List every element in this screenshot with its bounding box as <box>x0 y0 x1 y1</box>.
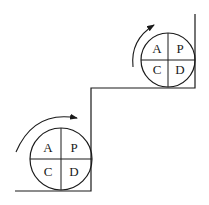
lower-quadrant-a: A <box>43 140 53 155</box>
lower-quadrant-c: C <box>44 164 53 179</box>
lower-quadrant-p: P <box>70 140 77 155</box>
upper-pdca-wheel: A P C D <box>133 25 195 87</box>
pdca-staircase-diagram: A P C D A P C D <box>0 0 209 205</box>
upper-quadrant-c: C <box>153 62 162 77</box>
upper-quadrant-d: D <box>175 62 184 77</box>
lower-quadrant-d: D <box>69 164 78 179</box>
upper-rotation-arrow-icon <box>133 25 154 67</box>
upper-quadrant-a: A <box>152 41 162 56</box>
upper-quadrant-p: P <box>176 41 183 56</box>
lower-pdca-wheel: A P C D <box>16 117 92 190</box>
